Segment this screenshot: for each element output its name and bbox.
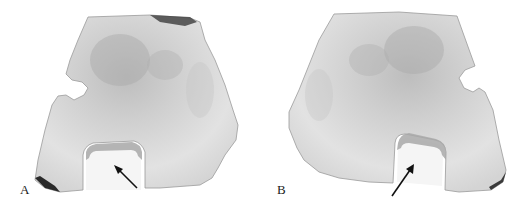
specimen-a-image	[0, 0, 259, 208]
panel-label-b: B	[277, 183, 286, 196]
panel-b: B	[259, 0, 518, 208]
panel-label-a: A	[20, 183, 29, 196]
panel-a: A	[0, 0, 259, 208]
specimen-b-image	[259, 0, 518, 208]
figure: A	[0, 0, 518, 208]
